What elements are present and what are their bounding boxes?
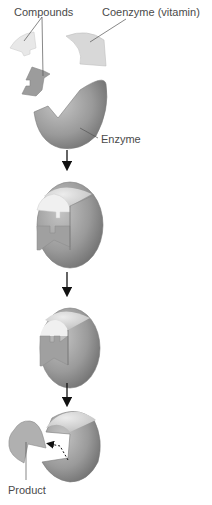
coenzyme-label: Coenzyme (vitamin) <box>102 6 200 18</box>
coenzyme-callout-line <box>90 19 126 42</box>
enzyme-body <box>34 80 107 149</box>
step-bound <box>37 182 103 268</box>
compounds-label: Compounds <box>14 6 73 18</box>
compound-dark-piece <box>22 67 50 96</box>
step-separate <box>10 17 126 149</box>
product-piece <box>9 421 46 463</box>
step-reacting <box>40 308 100 388</box>
enzyme-label: Enzyme <box>101 133 141 145</box>
product-label: Product <box>8 484 46 496</box>
step-release <box>9 411 100 482</box>
release-arrow-icon <box>50 444 68 460</box>
compound-light-piece <box>10 32 36 56</box>
enzyme-coenzyme-diagram <box>0 0 212 505</box>
compounds-callout-line-2 <box>42 17 43 76</box>
coenzyme-piece <box>66 33 106 66</box>
